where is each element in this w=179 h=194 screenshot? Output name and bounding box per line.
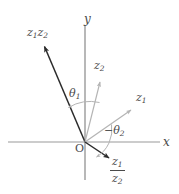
z1-sub: 1 — [142, 96, 147, 105]
vector-z1-over-z2 — [85, 142, 109, 158]
fraction-denominator: z2 — [110, 173, 125, 185]
frac-num-sub: 1 — [118, 160, 123, 169]
angle-label-theta1: θ1 — [69, 88, 80, 100]
vector-label-z1: z1 — [136, 92, 147, 104]
fraction-numerator: z1 — [110, 156, 125, 168]
z2-sub: 2 — [100, 64, 105, 73]
origin-label: O — [75, 143, 84, 154]
theta1-base: θ — [69, 87, 76, 100]
theta2-minus-sign: − — [104, 124, 113, 137]
frac-den-sub: 2 — [118, 177, 123, 186]
complex-plane-figure: y x O z1z2 z2 z1 θ1 −θ2 z1 z2 — [0, 0, 179, 194]
theta2-sub: 2 — [120, 129, 125, 138]
vector-label-z1-over-z2: z1 z2 — [110, 156, 125, 185]
y-axis-label: y — [84, 13, 91, 25]
angle-label-minus-theta2: −θ2 — [104, 125, 125, 137]
x-axis-label: x — [163, 136, 170, 148]
vector-label-z2: z2 — [94, 60, 105, 72]
vector-label-z1z2: z1z2 — [27, 27, 48, 39]
theta2-base: θ — [113, 124, 120, 137]
theta1-sub: 1 — [76, 92, 81, 101]
z1z2-sub-2: 2 — [43, 31, 48, 40]
fraction-bar — [110, 170, 125, 171]
